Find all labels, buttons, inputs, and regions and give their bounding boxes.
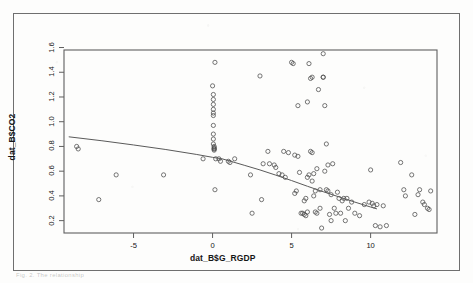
- data-point: [305, 100, 309, 104]
- data-point: [282, 149, 286, 153]
- data-point: [307, 62, 311, 66]
- data-point: [210, 84, 214, 88]
- data-point: [321, 52, 325, 56]
- y-tick-label: 0.6: [47, 161, 56, 181]
- data-point: [332, 206, 336, 210]
- data-point: [211, 123, 215, 127]
- data-point: [384, 223, 388, 227]
- data-point: [329, 219, 333, 223]
- x-tick-label: 10: [359, 241, 383, 250]
- data-point: [318, 206, 322, 210]
- data-point: [418, 188, 422, 192]
- data-point: [403, 194, 407, 198]
- x-tick-label: 0: [201, 241, 225, 250]
- data-point: [327, 212, 331, 216]
- x-axis-ticks: [134, 233, 371, 238]
- data-point: [357, 214, 361, 218]
- data-point: [373, 223, 377, 227]
- data-point: [266, 149, 270, 153]
- x-axis-title: dat_B$G_RGDP: [190, 253, 255, 263]
- data-point: [286, 151, 290, 155]
- data-point: [369, 168, 373, 172]
- figure-root: dat_B$CO2 dat_B$G_RGDP 0.20.40.60.81.01.…: [0, 0, 473, 283]
- data-point: [321, 75, 325, 79]
- data-point: [320, 226, 324, 230]
- data-point: [305, 210, 309, 214]
- data-point: [316, 87, 320, 91]
- y-axis-title: dat_B$CO2: [7, 107, 17, 167]
- data-point: [346, 206, 350, 210]
- x-tick-label: 5: [280, 241, 304, 250]
- data-point: [211, 92, 215, 96]
- data-point: [399, 160, 403, 164]
- data-point: [259, 198, 263, 202]
- data-point: [338, 211, 342, 215]
- data-point: [353, 211, 357, 215]
- x-tick-label: -5: [122, 241, 146, 250]
- data-point: [213, 188, 217, 192]
- data-point: [250, 211, 254, 215]
- data-point: [213, 60, 217, 64]
- data-point: [381, 204, 385, 208]
- y-tick-label: 0.2: [47, 210, 56, 230]
- data-point: [248, 173, 252, 177]
- data-point: [402, 188, 406, 192]
- data-point: [211, 137, 215, 141]
- y-tick-label: 1.0: [47, 111, 56, 131]
- data-point: [315, 167, 319, 171]
- data-point: [326, 163, 330, 167]
- y-tick-label: 1.6: [47, 37, 56, 57]
- scatter-plot: [0, 0, 473, 283]
- data-point: [335, 190, 339, 194]
- data-point: [261, 162, 265, 166]
- data-point: [416, 193, 420, 197]
- data-point: [410, 173, 414, 177]
- data-point: [201, 157, 205, 161]
- y-tick-label: 0.8: [47, 136, 56, 156]
- data-point: [334, 211, 338, 215]
- data-point: [312, 194, 316, 198]
- y-axis-ticks: [59, 48, 64, 221]
- y-tick-label: 1.4: [47, 62, 56, 82]
- data-point: [161, 173, 165, 177]
- data-point: [258, 74, 262, 78]
- data-point: [324, 142, 328, 146]
- data-point: [323, 169, 327, 173]
- data-point: [413, 212, 417, 216]
- y-tick-label: 0.4: [47, 185, 56, 205]
- data-point: [267, 162, 271, 166]
- data-point: [429, 189, 433, 193]
- data-point: [211, 97, 215, 101]
- data-point: [343, 219, 347, 223]
- data-point-group: [75, 52, 433, 231]
- data-point: [114, 173, 118, 177]
- y-tick-label: 1.2: [47, 86, 56, 106]
- figure-caption: Fig. 2. The relationship: [16, 272, 84, 278]
- data-point: [310, 179, 314, 183]
- data-point: [378, 225, 382, 229]
- data-point: [297, 170, 301, 174]
- data-point: [97, 198, 101, 202]
- data-point: [296, 104, 300, 108]
- data-point: [312, 172, 316, 176]
- data-point: [211, 132, 215, 136]
- data-point: [331, 162, 335, 166]
- data-point: [211, 102, 215, 106]
- data-point: [233, 157, 237, 161]
- data-point: [323, 104, 327, 108]
